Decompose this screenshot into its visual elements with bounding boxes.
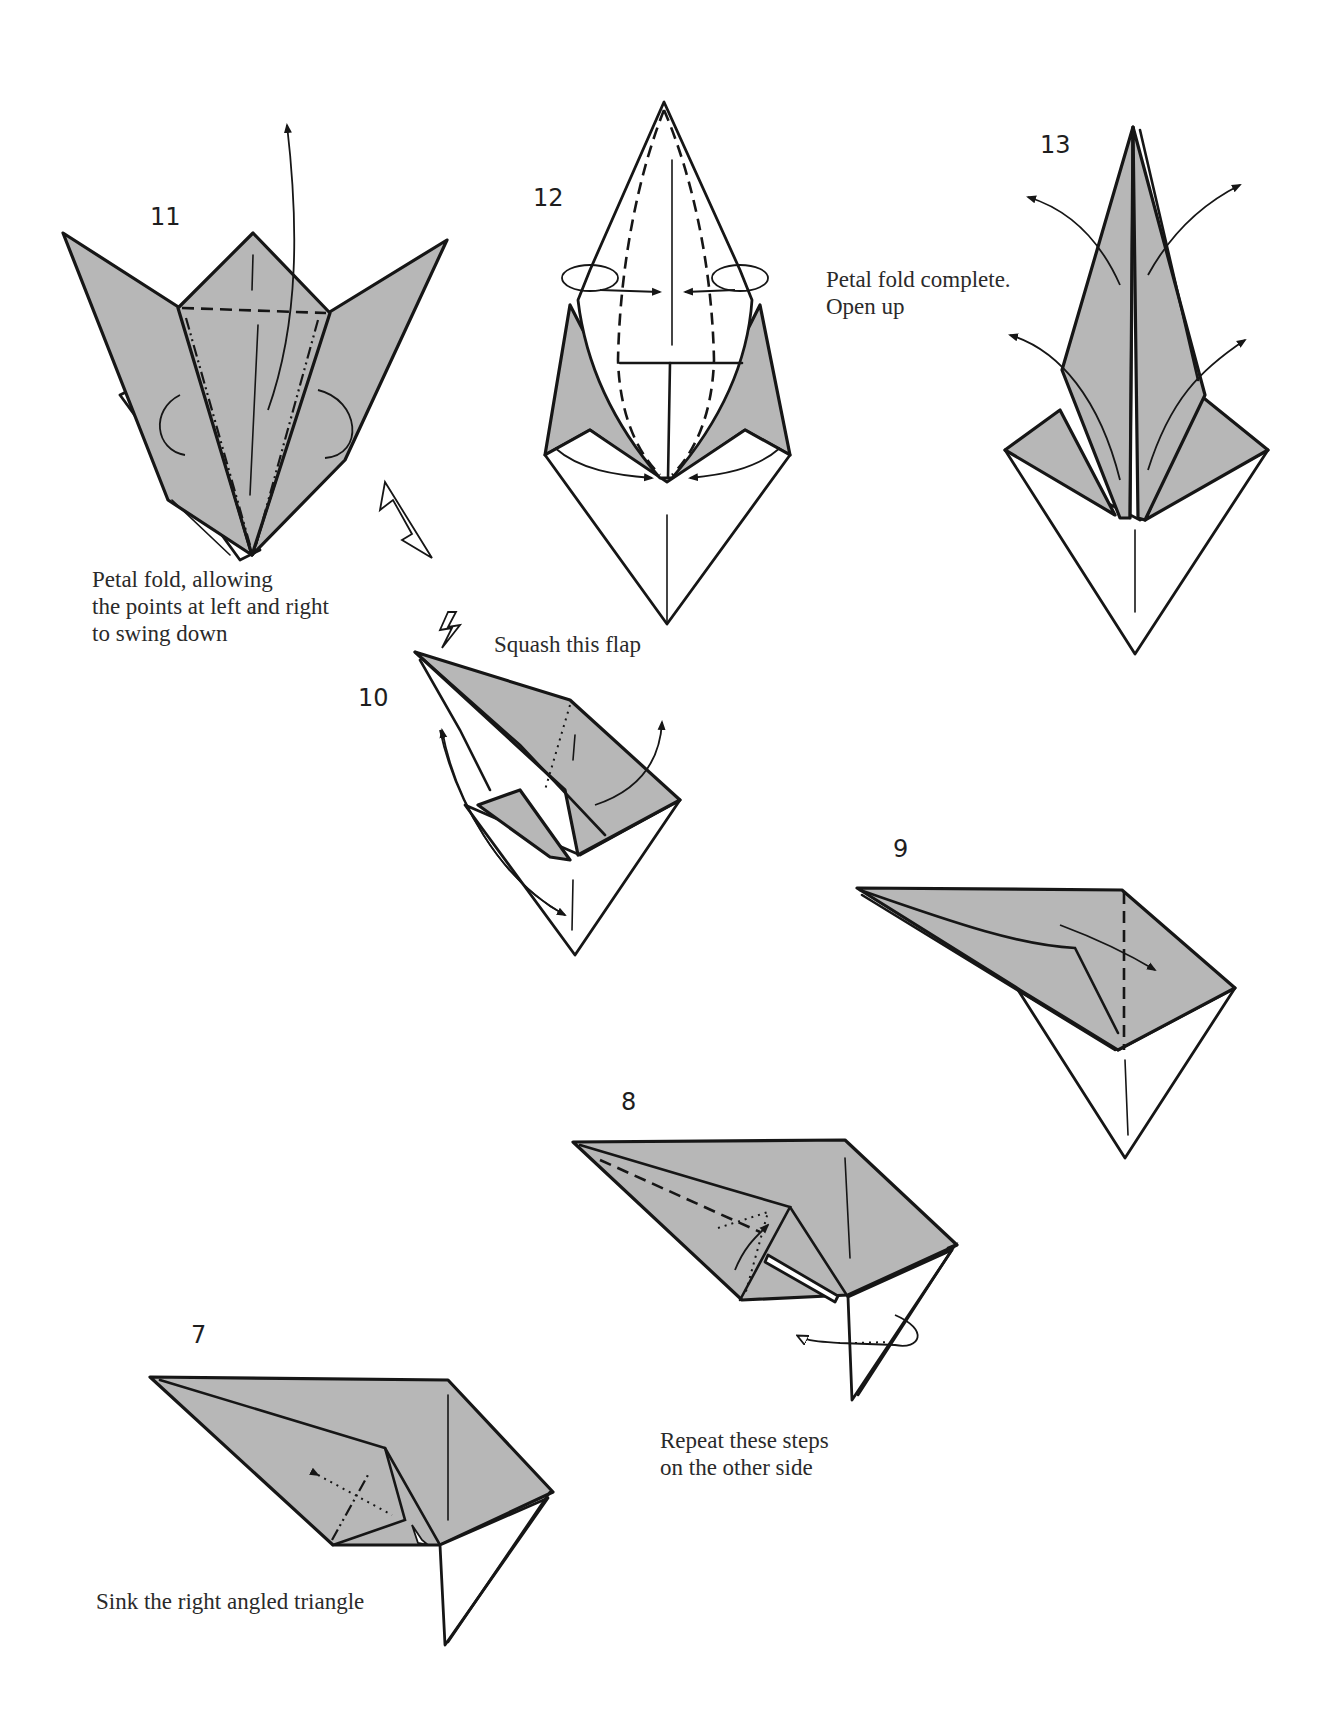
step-9-figure [857, 888, 1235, 1158]
step-number: 11 [150, 205, 181, 229]
push-arrow-icon [380, 482, 432, 558]
squash-arrow-icon [440, 612, 460, 648]
caption-line: the points at left and right [92, 593, 329, 620]
step-number: 13 [1040, 133, 1071, 157]
step-8-caption: Repeat these steps on the other side [660, 1427, 829, 1481]
caption-line: Petal fold complete. [826, 266, 1011, 293]
caption-line: Petal fold, allowing [92, 566, 329, 593]
step-11-figure [63, 125, 447, 560]
step-number: 7 [191, 1323, 206, 1347]
caption-line: Repeat these steps [660, 1427, 829, 1454]
step-12-figure [545, 102, 790, 624]
caption-line: to swing down [92, 620, 329, 647]
step-7-caption: Sink the right angled triangle [96, 1588, 364, 1615]
caption-line: Open up [826, 293, 1011, 320]
step-number: 10 [358, 686, 389, 710]
step-number: 8 [621, 1090, 636, 1114]
step-13-figure [1005, 127, 1268, 654]
step-number: 12 [533, 186, 564, 210]
step-10-caption: Squash this flap [494, 631, 641, 658]
step-11-caption: Petal fold, allowing the points at left … [92, 566, 329, 647]
step-10-figure [415, 612, 680, 955]
step-13-caption: Petal fold complete. Open up [826, 266, 1011, 320]
origami-diagram-page: 11 12 13 10 9 8 7 Petal fold, allowing t… [0, 0, 1322, 1734]
caption-line: on the other side [660, 1454, 829, 1481]
step-number: 9 [893, 837, 908, 861]
caption-line: Sink the right angled triangle [96, 1588, 364, 1615]
caption-line: Squash this flap [494, 631, 641, 658]
step-8-figure [573, 1140, 957, 1400]
